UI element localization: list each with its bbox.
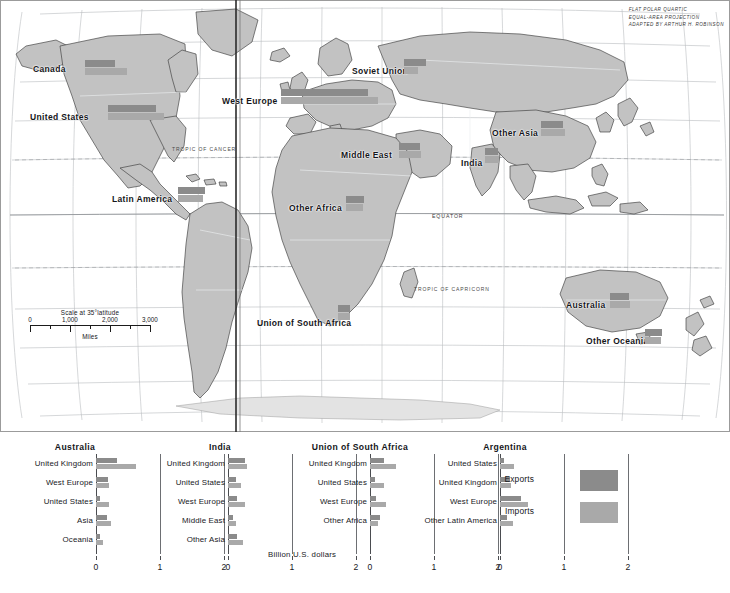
map-exports-bar [610, 293, 629, 300]
chart-exports-bar [96, 458, 117, 463]
chart-axis-tick-label: 1 [562, 562, 567, 572]
chart-axis-tick-label: 0 [94, 562, 99, 572]
chart-category-row: Oceania [0, 534, 150, 551]
chart-category-label: United Kingdom [35, 459, 93, 468]
chart-category-label: Middle East [182, 516, 225, 525]
map-imports-bar [404, 67, 418, 74]
chart-category-row: West Europe [290, 496, 430, 513]
chart-imports-bar [228, 521, 236, 526]
legend-label-imports: Imports [505, 506, 534, 516]
chart-title: Australia [0, 442, 150, 452]
chart-imports-bar [96, 483, 109, 488]
scale-numbers: 0 1,000 2,000 3,000 [30, 316, 150, 325]
chart-australia: Australia012United KingdomWest EuropeUni… [0, 432, 150, 593]
chart-title: Union of South Africa [290, 442, 430, 452]
map-exports-bar [404, 59, 426, 66]
chart-imports-bar [96, 502, 109, 507]
map-imports-bar [338, 313, 350, 320]
chart-category-row: Other Latin America [430, 515, 580, 532]
scale-caption: Scale at 35°latitude [30, 309, 150, 316]
chart-imports-bar [228, 464, 247, 469]
chart-imports-bar [370, 502, 386, 507]
scale-tick-3: 3,000 [142, 316, 158, 323]
chart-india: India012United KingdomUnited StatesWest … [150, 432, 290, 593]
chart-exports-bar [370, 477, 375, 482]
map-imports-bar [399, 151, 421, 158]
chart-category-row: United States [430, 458, 580, 475]
map-imports-bar [281, 97, 378, 104]
map-exports-bar [178, 187, 205, 194]
chart-category-label: United Kingdom [309, 459, 367, 468]
charts-axis-caption: Billion U.S. dollars [268, 550, 336, 559]
chart-axis-tick-label: 0 [226, 562, 231, 572]
chart-category-row: United States [290, 477, 430, 494]
chart-imports-bar [228, 540, 243, 545]
chart-exports-bar [228, 534, 237, 539]
map-imports-bar [645, 337, 661, 344]
map-trade-symbol [178, 187, 205, 202]
map-exports-bar [281, 89, 368, 96]
chart-axis-tick-label: 2 [626, 562, 631, 572]
chart-category-label: United States [176, 478, 225, 487]
chart-axis-tick [228, 556, 229, 560]
chart-imports-bar [228, 502, 245, 507]
scale-unit: Miles [30, 333, 150, 340]
legend-label-exports: Exports [505, 474, 534, 484]
map-trade-symbol [645, 329, 662, 344]
chart-title: Argentina [430, 442, 580, 452]
svg-text:TROPIC OF CANCER: TROPIC OF CANCER [172, 146, 236, 152]
world-map-panel: EQUATOR TROPIC OF CANCER TROPIC OF CAPRI… [0, 0, 730, 432]
chart-category-label: United States [448, 459, 497, 468]
chart-category-row: Asia [0, 515, 150, 532]
map-trade-symbol [404, 59, 426, 74]
chart-imports-bar [500, 521, 513, 526]
map-trade-symbol [108, 105, 164, 120]
map-exports-bar [85, 60, 115, 67]
chart-category-label: Other Asia [187, 535, 225, 544]
map-trade-symbol [85, 60, 127, 75]
map-exports-bar [541, 121, 563, 128]
chart-gridline [628, 454, 629, 554]
chart-axis-tick-label: 0 [368, 562, 373, 572]
chart-imports-bar [96, 540, 103, 545]
map-trade-symbol [610, 293, 630, 308]
map-imports-bar [178, 195, 203, 202]
map-imports-bar [85, 68, 127, 75]
chart-title: India [150, 442, 290, 452]
chart-exports-bar [370, 515, 380, 520]
chart-category-label: United Kingdom [439, 478, 497, 487]
chart-category-label: Oceania [63, 535, 93, 544]
legend-swatch-imports [580, 502, 618, 523]
chart-category-row: United Kingdom [290, 458, 430, 475]
chart-exports-bar [96, 534, 100, 539]
chart-category-label: Asia [77, 516, 93, 525]
map-trade-symbol [485, 148, 499, 163]
map-imports-bar [541, 129, 565, 136]
svg-text:EQUATOR: EQUATOR [432, 213, 463, 219]
chart-exports-bar [96, 496, 100, 501]
chart-category-row: Other Asia [150, 534, 290, 551]
chart-imports-bar [370, 521, 378, 526]
projection-note-line-2: EQUAL-AREA PROJECTION [629, 14, 724, 22]
chart-category-row: United Kingdom [0, 458, 150, 475]
chart-exports-bar [228, 496, 237, 501]
chart-category-label: United States [44, 497, 93, 506]
chart-imports-bar [500, 464, 514, 469]
chart-category-row: West Europe [0, 477, 150, 494]
legend-swatch-exports [580, 470, 618, 491]
bar-charts-panel: Australia012United KingdomWest EuropeUni… [0, 432, 730, 593]
map-exports-bar [108, 105, 156, 112]
map-trade-symbol [346, 196, 364, 211]
chart-exports-bar [228, 477, 236, 482]
map-trade-symbol [399, 143, 421, 158]
chart-axis-tick [96, 556, 97, 560]
chart-imports-bar [96, 521, 111, 526]
map-exports-bar [485, 148, 498, 155]
map-exports-bar [338, 305, 350, 312]
chart-category-row: Other Africa [290, 515, 430, 532]
map-imports-bar [485, 156, 499, 163]
svg-text:TROPIC OF CAPRICORN: TROPIC OF CAPRICORN [414, 286, 490, 292]
chart-axis-tick [628, 556, 629, 560]
chart-exports-bar [96, 477, 108, 482]
chart-axis-tick-label: 0 [498, 562, 503, 572]
